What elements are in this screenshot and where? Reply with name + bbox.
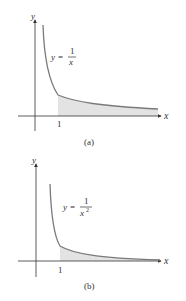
equation-denominator-b: x xyxy=(79,208,84,218)
y-axis-label-a: y xyxy=(30,11,35,21)
curve-a xyxy=(43,25,158,109)
equation-label-b: y = 1 x 2 xyxy=(62,196,92,218)
equation-numerator-a: 1 xyxy=(70,46,75,56)
equation-numerator-b: 1 xyxy=(84,196,89,206)
chart-panel-b: y x 1 (b) y = 1 x 2 xyxy=(18,155,169,291)
equation-denominator-a: x xyxy=(68,57,73,67)
panel-label-b: (b) xyxy=(84,281,95,291)
x-axis-label-b: x xyxy=(163,255,169,266)
equation-equals-b: = xyxy=(70,202,75,212)
y-axis-label-b: y xyxy=(31,155,36,165)
curve-b xyxy=(50,184,160,260)
equation-lhs-a: y xyxy=(50,52,55,62)
figure: y x 1 (a) y = 1 x y x 1 (b) y = 1 x 2 xyxy=(0,0,186,301)
chart-panel-a: y x 1 (a) y = 1 x xyxy=(18,11,169,147)
x-axis-label-a: x xyxy=(163,110,169,121)
tick-label-1-a: 1 xyxy=(57,119,62,129)
equation-equals-a: = xyxy=(58,52,63,62)
panel-label-a: (a) xyxy=(84,137,94,147)
tick-label-1-b: 1 xyxy=(58,265,63,275)
equation-label-a: y = 1 x xyxy=(50,46,76,67)
equation-lhs-b: y xyxy=(62,202,67,212)
equation-exponent-b: 2 xyxy=(86,207,89,213)
